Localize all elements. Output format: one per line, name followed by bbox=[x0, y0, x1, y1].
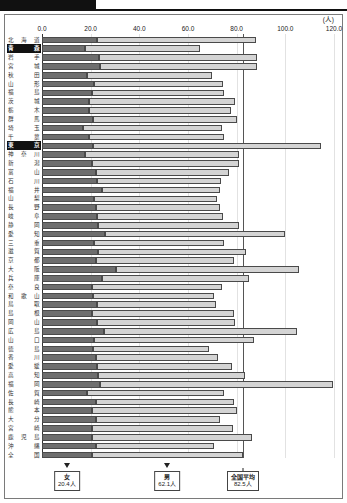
chart-row: 福 井 bbox=[5, 186, 344, 195]
chart-row: 新 潟 bbox=[5, 159, 344, 168]
chart-row: 宮 城 bbox=[5, 62, 344, 71]
prefecture-label: 香 川 bbox=[7, 353, 41, 362]
chart-row: 鹿児島 bbox=[5, 433, 344, 442]
bar-segment-male bbox=[89, 107, 230, 114]
prefecture-label: 栃 木 bbox=[7, 106, 41, 115]
chart-row: 沖 縄 bbox=[5, 442, 344, 451]
bar-segment-male bbox=[83, 125, 222, 132]
bar-segment-male bbox=[97, 363, 232, 370]
bar-segment-female bbox=[42, 196, 94, 203]
stacked-bar bbox=[42, 116, 237, 123]
prefecture-label: 山 形 bbox=[7, 80, 41, 89]
prefecture-label: 京 都 bbox=[7, 256, 41, 265]
bar-segment-female bbox=[42, 240, 94, 247]
bar-segment-female bbox=[42, 90, 92, 97]
chart-row: 徳 島 bbox=[5, 345, 344, 354]
stacked-bar bbox=[42, 63, 257, 70]
prefecture-label: 静 岡 bbox=[7, 221, 41, 230]
chart-row: 千 葉 bbox=[5, 133, 344, 142]
prefecture-label: 富 山 bbox=[7, 168, 41, 177]
chart-row: 青 森 bbox=[5, 44, 344, 53]
prefecture-label: 群 馬 bbox=[7, 115, 41, 124]
chart-row: 福 岡 bbox=[5, 380, 344, 389]
x-tick-label: 80.0 bbox=[230, 24, 243, 33]
prefecture-label: 島 根 bbox=[7, 309, 41, 318]
chart-row: 香 川 bbox=[5, 353, 344, 362]
bar-segment-male bbox=[94, 81, 223, 88]
top-header-rule bbox=[0, 9, 347, 11]
bar-segment-female bbox=[42, 169, 96, 176]
bar-segment-male bbox=[96, 354, 219, 361]
chart-row: 神奈川 bbox=[5, 150, 344, 159]
prefecture-label: 岐 阜 bbox=[7, 212, 41, 221]
bar-segment-male bbox=[92, 434, 253, 441]
chart-row: 和歌山 bbox=[5, 292, 344, 301]
bar-segment-male bbox=[92, 284, 222, 291]
bar-segment-male bbox=[96, 257, 235, 264]
stacked-bar bbox=[42, 407, 237, 414]
chart-row: 佐 賀 bbox=[5, 389, 344, 398]
chart-row: 静 岡 bbox=[5, 221, 344, 230]
stacked-bar bbox=[42, 204, 220, 211]
chart-row: 群 馬 bbox=[5, 115, 344, 124]
stacked-bar bbox=[42, 293, 214, 300]
bar-segment-male bbox=[97, 178, 221, 185]
stacked-bar bbox=[42, 275, 249, 282]
bar-segment-female bbox=[42, 319, 97, 326]
bar-segment-female bbox=[42, 434, 92, 441]
stacked-bar bbox=[42, 196, 217, 203]
stacked-bar bbox=[42, 178, 221, 185]
prefecture-label: 熊 本 bbox=[7, 406, 41, 415]
bar-segment-male bbox=[92, 407, 237, 414]
chart-row: 三 重 bbox=[5, 239, 344, 248]
bar-segment-male bbox=[102, 275, 249, 282]
prefecture-label: 奈 良 bbox=[7, 283, 41, 292]
stacked-bar bbox=[42, 222, 239, 229]
prefecture-label: 石 川 bbox=[7, 177, 41, 186]
stacked-bar bbox=[42, 310, 234, 317]
stacked-bar bbox=[42, 98, 235, 105]
stacked-bar bbox=[42, 45, 200, 52]
prefecture-label: 宮 崎 bbox=[7, 424, 41, 433]
prefecture-label: 埼 玉 bbox=[7, 124, 41, 133]
legend-callout-name: 全国平均 bbox=[231, 474, 255, 482]
chart-figure: (人) 0.020.040.060.080.0100.0120.0 北海道青 森… bbox=[4, 14, 343, 499]
prefecture-label: 徳 島 bbox=[7, 345, 41, 354]
bar-segment-male bbox=[96, 169, 230, 176]
axis-unit-label: (人) bbox=[323, 16, 334, 23]
stacked-bar bbox=[42, 363, 232, 370]
bar-segment-female bbox=[42, 328, 104, 335]
bar-segment-male bbox=[85, 45, 201, 52]
prefecture-label: 山 梨 bbox=[7, 194, 41, 203]
chart-row: 大 分 bbox=[5, 415, 344, 424]
prefecture-label: 沖 縄 bbox=[7, 442, 41, 451]
top-header-block bbox=[0, 0, 96, 9]
chart-row: 長 野 bbox=[5, 203, 344, 212]
stacked-bar bbox=[42, 151, 239, 158]
bar-segment-male bbox=[97, 37, 256, 44]
stacked-bar bbox=[42, 134, 225, 141]
stacked-bar bbox=[42, 284, 222, 291]
stacked-bar bbox=[42, 452, 243, 459]
bar-segment-male bbox=[100, 63, 257, 70]
chart-row: 北海道 bbox=[5, 36, 344, 45]
chart-row: 宮 崎 bbox=[5, 424, 344, 433]
prefecture-label: 北海道 bbox=[7, 36, 41, 45]
stacked-bar bbox=[42, 390, 225, 397]
prefecture-label: 佐 賀 bbox=[7, 389, 41, 398]
bar-segment-female bbox=[42, 187, 102, 194]
stacked-bar bbox=[42, 37, 256, 44]
bar-segment-male bbox=[97, 213, 224, 220]
x-tick-label: 100.0 bbox=[277, 24, 293, 33]
bar-segment-male bbox=[94, 196, 217, 203]
chart-row: 岐 阜 bbox=[5, 212, 344, 221]
prefecture-label: 鹿児島 bbox=[7, 433, 41, 442]
chart-row: 奈 良 bbox=[5, 283, 344, 292]
bar-segment-male bbox=[97, 301, 216, 308]
prefecture-label: 秋 田 bbox=[7, 71, 41, 80]
bar-segment-female bbox=[42, 37, 97, 44]
bar-segment-male bbox=[94, 240, 224, 247]
stacked-bar bbox=[42, 381, 333, 388]
bar-segment-female bbox=[42, 45, 85, 52]
prefecture-label: 岡 山 bbox=[7, 318, 41, 327]
